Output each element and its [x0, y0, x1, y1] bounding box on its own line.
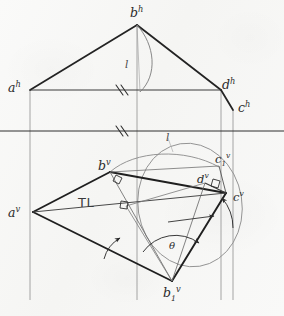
- construction-c1v-cv: [219, 166, 226, 193]
- front-view-outline: [33, 172, 226, 281]
- label-theta: θ: [169, 240, 175, 251]
- radius-leader-top: [137, 25, 140, 92]
- label-a-h: ah: [8, 80, 21, 95]
- label-true-length: TL: [78, 195, 94, 210]
- label-a-v: av: [8, 205, 20, 220]
- label-b-v: bv: [98, 158, 111, 173]
- right-angle-cv: [211, 179, 220, 188]
- label-c-h: ch: [238, 100, 250, 115]
- label-b1-v: b1v: [163, 285, 181, 302]
- label-arc-radius-top: l: [125, 58, 128, 70]
- label-c1-v: c1v: [215, 152, 230, 167]
- true-length-line: [33, 193, 226, 212]
- label-d-v: dv: [197, 172, 209, 185]
- rotation-arrow-right: [222, 198, 233, 228]
- edge-b1v-cv: [172, 193, 226, 281]
- edge-bh-dh: [137, 25, 221, 90]
- geometry-canvas: [0, 0, 284, 316]
- top-view-outline: [30, 25, 233, 110]
- label-d-h: dh: [222, 77, 235, 92]
- right-angle-tl-mid: [120, 201, 128, 209]
- label-c-v: cv: [233, 190, 244, 203]
- edge-dh-ch: [221, 90, 233, 110]
- parallel-tick-marks: [116, 85, 128, 136]
- horizontal-view-group: [30, 25, 233, 300]
- label-arc-radius-bottom: l: [166, 131, 169, 143]
- projector-lines-top: [30, 25, 233, 300]
- edge-ah-bh: [30, 25, 137, 90]
- chord-arrow: [168, 216, 214, 222]
- drawing-sheet: ah bh dh ch av bv dv cv c1v b1v TL θ l l: [0, 0, 284, 316]
- label-b-h: bh: [130, 5, 143, 20]
